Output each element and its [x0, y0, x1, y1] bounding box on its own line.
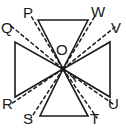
vertex-label-P: P [23, 5, 33, 20]
ray-OS-line [31, 69, 63, 118]
vertex-label-T: T [90, 111, 99, 126]
vertex-label-S: S [23, 111, 33, 126]
vertex-label-V: V [111, 20, 121, 35]
vertex-label-U: U [108, 96, 119, 111]
center-vertex-dot [61, 67, 66, 72]
right-triangle [63, 42, 110, 97]
vertex-label-O: O [56, 42, 68, 57]
ray-OV-line [63, 27, 115, 69]
vertex-label-W: W [91, 4, 105, 19]
vertex-label-Q: Q [1, 20, 13, 35]
geometry-figure: P Q W V O R S T U [0, 0, 126, 130]
vertex-label-R: R [2, 96, 13, 111]
